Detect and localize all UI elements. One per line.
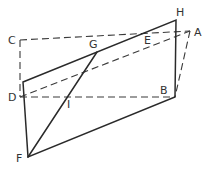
label-A: A xyxy=(194,26,202,39)
label-I: I xyxy=(67,98,70,111)
label-E: E xyxy=(144,34,151,47)
label-F: F xyxy=(16,152,22,165)
dashed-edge-AB xyxy=(175,31,190,97)
solid-edge-FG xyxy=(28,52,97,157)
label-B: B xyxy=(160,84,168,97)
solid-quadrilateral xyxy=(23,20,176,157)
label-H: H xyxy=(176,6,184,19)
label-C: C xyxy=(8,34,16,47)
geometry-diagram: A B C D E F G H I xyxy=(0,0,214,172)
dashed-edge-CA xyxy=(20,31,190,40)
label-G: G xyxy=(89,38,98,51)
label-D: D xyxy=(8,91,16,104)
